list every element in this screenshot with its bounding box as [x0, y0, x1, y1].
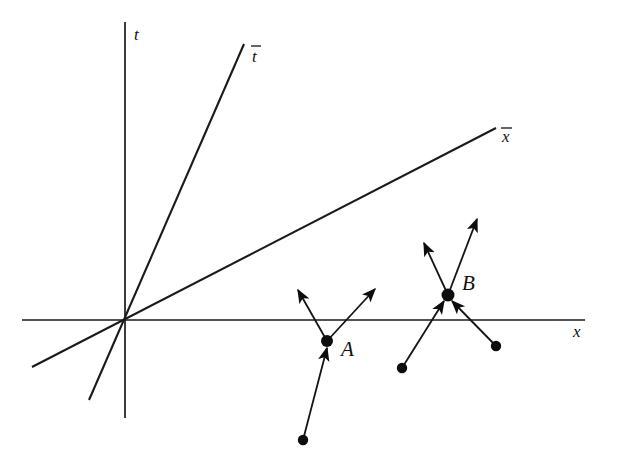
event-a-label: A: [339, 337, 354, 361]
diagram-canvas: t t x x A: [0, 0, 621, 460]
axes-group: [22, 22, 585, 418]
axis-label-x: x: [572, 322, 581, 341]
event-b-vertex-dot: [442, 289, 455, 302]
event-b-label: B: [462, 271, 475, 295]
event-b-incoming-worldline-1: [402, 301, 444, 368]
spacetime-diagram-figure: t t x x A: [0, 0, 621, 460]
axis-label-x-bar-group: x: [501, 127, 512, 146]
event-b-outgoing-worldline-1: [424, 243, 448, 295]
event-a-incoming-worldline-1: [303, 348, 327, 440]
event-a-vertex-dot: [321, 335, 333, 347]
event-b-group: B: [397, 219, 501, 373]
event-b-incoming-source-dot-1: [397, 363, 407, 373]
event-a-outgoing-worldline-2: [327, 289, 375, 341]
event-b-incoming-source-dot-2: [491, 341, 501, 351]
axis-label-t: t: [134, 25, 140, 44]
axis-label-t-bar: t: [252, 47, 258, 66]
event-a-group: A: [298, 289, 375, 445]
event-a-incoming-source-dot-1: [298, 435, 308, 445]
axis-label-t-bar-group: t: [251, 46, 261, 66]
event-b-incoming-worldline-2: [452, 301, 496, 346]
event-a-outgoing-worldline-1: [298, 290, 327, 341]
axis-t-bar-line: [89, 44, 244, 400]
axis-label-x-bar: x: [501, 127, 510, 146]
axis-labels-group: t t x x: [134, 25, 581, 341]
